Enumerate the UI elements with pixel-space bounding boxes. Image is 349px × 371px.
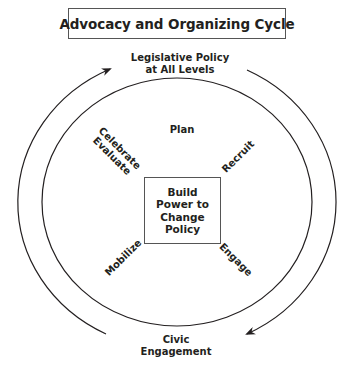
legislative-policy-line1: Legislative Policy (120, 52, 240, 64)
center-goal-box: Build Power to Change Policy (144, 177, 221, 244)
right-outer-arrow-arc (247, 70, 336, 334)
left-outer-arrow-arc (18, 69, 110, 334)
legislative-policy-line2: at All Levels (120, 64, 240, 76)
center-line-1: Build (167, 186, 197, 199)
center-line-2: Power to (156, 198, 209, 211)
center-line-4: Policy (165, 223, 200, 236)
center-line-3: Change (160, 211, 204, 224)
step-plan: Plan (152, 124, 212, 136)
step-plan-label: Plan (170, 124, 195, 135)
legislative-policy-label: Legislative Policy at All Levels (120, 52, 240, 76)
civic-engagement-line2: Engagement (116, 346, 236, 358)
civic-engagement-line1: Civic (116, 334, 236, 346)
civic-engagement-label: Civic Engagement (116, 334, 236, 358)
